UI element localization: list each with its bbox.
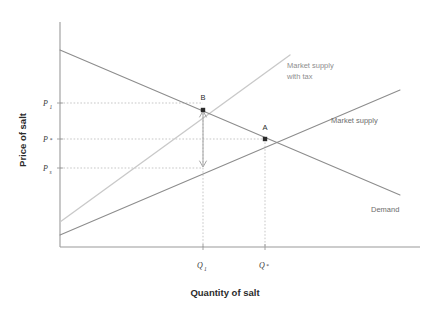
x-axis-title: Quantity of salt — [190, 287, 260, 298]
y-tick-label-pstar-base: P — [42, 135, 48, 144]
point-label-a: A — [262, 123, 267, 132]
curve-group — [60, 50, 400, 235]
point-marker-b — [201, 108, 205, 112]
market-supply-curve — [60, 90, 400, 235]
x-tick-label-q1: Q 1 — [197, 261, 207, 272]
x-tick-label-q1-sub: 1 — [204, 266, 207, 272]
x-tick-label-qstar: Q * — [259, 261, 269, 270]
supply-demand-tax-chart: B A Market supply with tax Market supply… — [0, 0, 426, 310]
market-supply-with-tax-label-line2: with tax — [286, 72, 313, 81]
market-supply-with-tax-label-line1: Market supply — [287, 61, 334, 70]
chart-canvas: B A Market supply with tax Market supply… — [0, 0, 426, 310]
gridline-group — [60, 103, 265, 168]
demand-label: Demand — [371, 205, 399, 214]
market-supply-label: Market supply — [331, 116, 378, 125]
y-tick-label-ps: P s — [42, 164, 52, 175]
point-marker-a — [263, 137, 267, 141]
x-tick-label-q1-base: Q — [197, 261, 203, 270]
market-supply-with-tax-curve — [60, 55, 290, 222]
y-tick-label-pstar-sub: * — [50, 137, 53, 143]
axes-group — [57, 22, 420, 250]
x-tick-label-qstar-sub: * — [266, 263, 269, 269]
y-tick-label-p1-base: P — [42, 99, 48, 108]
y-tick-label-p1: P 1 — [42, 99, 53, 110]
y-tick-label-ps-sub: s — [50, 169, 52, 175]
y-axis-title: Price of salt — [17, 112, 28, 167]
point-label-b: B — [200, 93, 205, 102]
y-tick-label-p1-sub: 1 — [50, 104, 53, 110]
y-tick-label-ps-base: P — [42, 164, 48, 173]
dropline-group — [203, 110, 265, 247]
y-tick-label-pstar: P * — [42, 135, 53, 144]
x-tick-label-qstar-base: Q — [259, 261, 265, 270]
